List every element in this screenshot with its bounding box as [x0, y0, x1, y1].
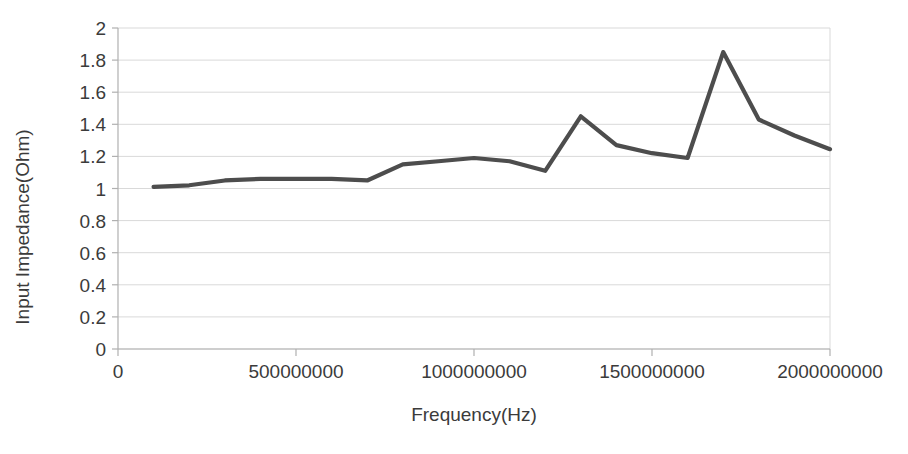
x-axis-tick-label: 500000000	[248, 361, 343, 382]
y-axis-tick-label: 0.6	[80, 243, 106, 264]
y-axis-tick-label: 0.2	[80, 307, 106, 328]
x-axis-tick-label: 1500000000	[599, 361, 705, 382]
y-axis-tick-label: 1.8	[80, 50, 106, 71]
x-axis-title: Frequency(Hz)	[118, 404, 830, 426]
y-axis-tick-label: 0	[95, 339, 106, 360]
chart-plot-area: 00.20.40.60.811.21.41.61.82 050000000010…	[0, 0, 908, 454]
y-axis-tick-label: 0.8	[80, 211, 106, 232]
data-line-input-impedance	[154, 52, 830, 187]
x-axis-tick-label: 2000000000	[777, 361, 883, 382]
data-series-group	[154, 52, 830, 187]
y-axis-tick-label: 1	[95, 179, 106, 200]
chart-container: Input Impedance(Ohm) 00.20.40.60.811.21.…	[0, 0, 908, 454]
x-axis-tick-label: 1000000000	[421, 361, 527, 382]
y-axis-tick-label: 1.2	[80, 146, 106, 167]
y-axis-tick-label: 1.4	[80, 114, 107, 135]
y-axis-tick-label: 2	[95, 18, 106, 39]
y-axis-tick-label: 0.4	[80, 275, 107, 296]
gridlines-group	[118, 28, 830, 349]
x-axis-ticks-group: 0500000000100000000015000000002000000000	[113, 349, 883, 382]
y-axis-tick-label: 1.6	[80, 82, 106, 103]
x-axis-tick-label: 0	[113, 361, 124, 382]
y-axis-ticks-group: 00.20.40.60.811.21.41.61.82	[80, 18, 118, 360]
